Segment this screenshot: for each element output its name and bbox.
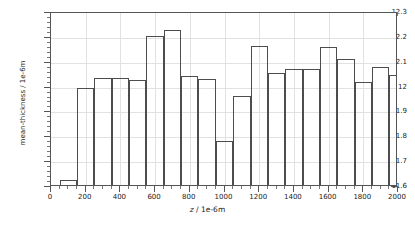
bar — [303, 69, 320, 185]
bar — [268, 73, 285, 185]
x-axis-minor-tick — [67, 186, 68, 189]
x-axis-minor-tick — [145, 186, 146, 189]
bar — [181, 76, 198, 185]
bar — [129, 80, 146, 185]
x-axis-minor-tick — [388, 186, 389, 189]
y-axis-title: mean-thickness / 1e-6m — [19, 28, 27, 178]
bar — [355, 82, 372, 185]
x-axis-minor-tick — [302, 186, 303, 189]
x-axis-tick — [397, 186, 398, 192]
x-axis-title: z / 1e-6m — [0, 205, 415, 214]
bar — [233, 96, 250, 185]
x-axis-minor-tick — [241, 186, 242, 189]
x-axis-minor-tick — [276, 186, 277, 189]
bar — [146, 36, 163, 185]
bar — [320, 47, 337, 185]
bar-series — [51, 13, 396, 185]
x-axis-minor-tick — [267, 186, 268, 189]
bar — [94, 78, 111, 185]
x-axis-tick — [119, 186, 120, 192]
x-axis-minor-tick — [180, 186, 181, 189]
x-axis-minor-tick — [336, 186, 337, 189]
bar — [372, 67, 389, 185]
x-axis-minor-tick — [59, 186, 60, 189]
x-axis-tick — [154, 186, 155, 192]
x-axis-minor-tick — [215, 186, 216, 189]
x-axis-minor-tick — [250, 186, 251, 189]
bar — [389, 75, 397, 185]
x-axis-minor-tick — [319, 186, 320, 189]
x-axis-units: / 1e-6m — [194, 205, 225, 214]
x-axis-minor-tick — [171, 186, 172, 189]
x-axis-tick — [293, 186, 294, 192]
bar — [337, 59, 354, 185]
x-axis-minor-tick — [284, 186, 285, 189]
x-axis-tick — [85, 186, 86, 192]
x-axis-minor-tick — [137, 186, 138, 189]
x-axis-minor-tick — [310, 186, 311, 189]
x-axis-minor-tick — [232, 186, 233, 189]
x-axis-minor-tick — [102, 186, 103, 189]
x-axis-minor-tick — [76, 186, 77, 189]
plot-area — [50, 12, 397, 186]
bar — [285, 69, 302, 185]
x-axis-minor-tick — [380, 186, 381, 189]
x-axis-tick — [328, 186, 329, 192]
x-axis-tick — [258, 186, 259, 192]
x-axis-minor-tick — [128, 186, 129, 189]
x-axis-minor-tick — [163, 186, 164, 189]
x-axis-minor-tick — [345, 186, 346, 189]
bar — [216, 141, 233, 185]
bar — [198, 79, 215, 185]
x-axis-minor-tick — [371, 186, 372, 189]
bar — [251, 46, 268, 185]
x-axis-minor-tick — [111, 186, 112, 189]
x-axis-tick-label: 2000 — [377, 193, 415, 201]
bar — [164, 30, 181, 185]
x-axis-minor-tick — [93, 186, 94, 189]
x-axis-minor-tick — [197, 186, 198, 189]
chart-figure: mean-thickness / 1e-6m 11.611.711.811.91… — [0, 0, 415, 225]
x-axis-tick — [362, 186, 363, 192]
bar — [60, 180, 77, 185]
x-axis-minor-tick — [206, 186, 207, 189]
x-axis-tick — [224, 186, 225, 192]
bar — [77, 88, 94, 185]
x-axis-minor-tick — [354, 186, 355, 189]
bar — [112, 78, 129, 185]
x-axis-tick-top — [397, 12, 398, 16]
x-axis-tick — [189, 186, 190, 192]
x-axis-tick — [50, 186, 51, 192]
